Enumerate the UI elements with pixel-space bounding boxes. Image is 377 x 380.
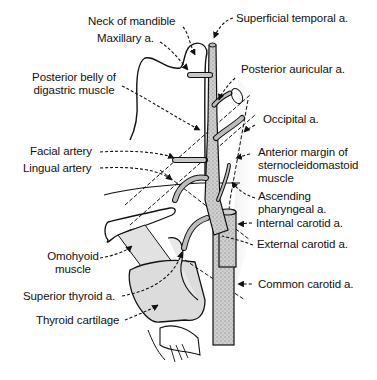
label-external-carotid-artery: External carotid a. [257,238,348,251]
label-thyroid-cartilage: Thyroid cartilage [36,314,119,327]
label-omohyoid-muscle: Omohyoid muscle [44,250,102,276]
label-scm-line3: muscle [258,172,358,185]
label-maxillary-artery: Maxillary a. [97,32,154,45]
label-lingual-artery: Lingual artery [23,162,91,175]
anatomy-figure: Neck of mandible Maxillary a. Posterior … [0,0,377,380]
label-posterior-belly-line2: digastric muscle [28,84,120,97]
label-posterior-belly-line1: Posterior belly of [28,71,120,84]
label-ascending-pharyngeal-line2: pharyngeal a. [258,203,326,216]
label-omohyoid-line2: muscle [44,263,102,276]
label-posterior-belly-digastric: Posterior belly of digastric muscle [28,71,120,97]
label-facial-artery: Facial artery [30,145,92,158]
label-superior-thyroid-artery: Superior thyroid a. [23,290,115,303]
label-anterior-margin-scm: Anterior margin of sternocleidomastoid m… [258,146,358,185]
label-ascending-pharyngeal-line1: Ascending [258,190,326,203]
label-internal-carotid-artery: Internal carotid a. [256,217,343,230]
label-common-carotid-artery: Common carotid a. [258,278,353,291]
label-occipital-artery: Occipital a. [263,113,319,126]
label-scm-line1: Anterior margin of [258,146,358,159]
label-superficial-temporal-artery: Superficial temporal a. [236,12,348,25]
label-neck-of-mandible: Neck of mandible [88,15,175,28]
label-omohyoid-line1: Omohyoid [44,250,102,263]
label-posterior-auricular-artery: Posterior auricular a. [241,63,345,76]
label-ascending-pharyngeal-artery: Ascending pharyngeal a. [258,190,326,216]
label-scm-line2: sternocleidomastoid [258,159,358,172]
